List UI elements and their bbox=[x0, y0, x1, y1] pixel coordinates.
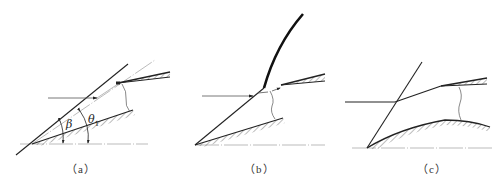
panel-b bbox=[195, 14, 325, 147]
sonic-line bbox=[459, 87, 462, 120]
detached-shock bbox=[264, 14, 303, 88]
wedge-surface bbox=[195, 118, 283, 145]
panel-c bbox=[345, 62, 494, 150]
caption-a: （a） bbox=[66, 160, 96, 176]
caption-b: （b） bbox=[244, 160, 275, 176]
ramp-hatch bbox=[369, 120, 490, 150]
theta1-label: θ1 bbox=[88, 113, 99, 128]
sonic-line bbox=[122, 84, 130, 112]
beta-label: β bbox=[66, 118, 72, 131]
intake-shock-diagram bbox=[0, 0, 504, 184]
theta-symbol: θ bbox=[88, 113, 95, 126]
oblique-shock bbox=[16, 64, 128, 155]
sonic-line bbox=[270, 91, 275, 119]
caption-c: （c） bbox=[417, 160, 447, 176]
theta-subscript: 1 bbox=[95, 120, 99, 128]
panel-a bbox=[16, 60, 170, 155]
dashed-ray bbox=[32, 60, 155, 144]
cowl-lip bbox=[116, 82, 120, 85]
